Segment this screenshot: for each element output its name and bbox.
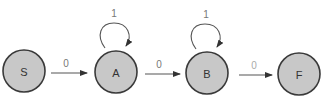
transition-b-self-loop: 1: [191, 9, 220, 49]
transition-s-to-a: 0: [51, 58, 87, 73]
edge-label-a-a: 1: [111, 8, 117, 19]
state-b: B: [186, 52, 228, 94]
edge-label-b-f: 0: [251, 60, 257, 71]
state-diagram: 0 1 0 1 0 S A B F: [0, 0, 328, 102]
transition-b-to-f: 0: [239, 60, 272, 75]
edge-label-b-b: 1: [203, 9, 209, 20]
self-loop-arrow: [191, 24, 220, 49]
state-label: F: [296, 69, 303, 81]
state-label: A: [112, 67, 120, 79]
state-f: F: [278, 53, 320, 95]
transition-a-to-b: 0: [145, 59, 180, 74]
edge-label-s-a: 0: [63, 58, 69, 69]
state-label: S: [20, 66, 27, 78]
self-loop-arrow: [100, 23, 129, 48]
state-label: B: [203, 68, 210, 80]
edge-label-a-b: 0: [156, 59, 162, 70]
transition-a-self-loop: 1: [100, 8, 129, 48]
state-a: A: [95, 51, 137, 93]
state-s: S: [3, 50, 45, 92]
